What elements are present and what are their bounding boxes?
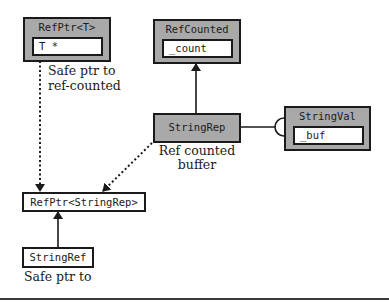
edge-stringrep-to-refptr-stringrep: [103, 143, 152, 191]
class-stringrep[interactable]: StringRep: [153, 113, 241, 143]
class-title: StringVal: [286, 110, 369, 122]
caption-refptr-t-line1: Safe ptr to: [48, 64, 116, 78]
class-field: _buf: [293, 126, 364, 145]
class-diagram: RefPtr<T> T * RefCounted _count StringRe…: [0, 0, 389, 303]
class-stringref[interactable]: StringRef: [22, 247, 94, 268]
half-circle-connector-icon: [275, 118, 284, 136]
class-stringval[interactable]: StringVal _buf: [284, 106, 371, 151]
class-field: T *: [32, 37, 103, 56]
caption-stringref-line1: Safe ptr to: [24, 270, 92, 284]
class-title: RefCounted: [155, 23, 239, 35]
class-refptr-stringrep[interactable]: RefPtr<StringRep>: [22, 192, 146, 212]
class-title: StringRef: [24, 251, 92, 263]
caption-stringrep-line1: Ref counted: [153, 144, 241, 158]
bottom-rule-divider: [0, 298, 389, 300]
class-refptr-t[interactable]: RefPtr<T> T *: [23, 17, 111, 62]
class-field: _count: [162, 39, 233, 58]
class-refcounted[interactable]: RefCounted _count: [153, 19, 241, 64]
class-title: StringRep: [155, 121, 239, 133]
caption-refptr-t-line2: ref-counted: [48, 79, 121, 93]
class-title: RefPtr<T>: [25, 21, 109, 33]
caption-stringrep-line2: buffer: [153, 158, 241, 172]
class-title: RefPtr<StringRep>: [24, 196, 144, 208]
